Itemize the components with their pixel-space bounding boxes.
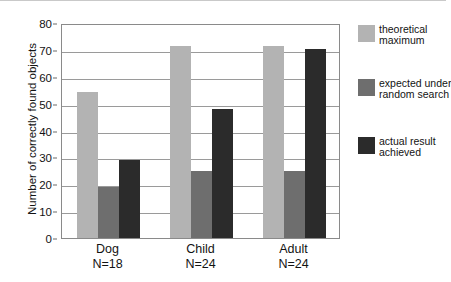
y-tick-mark: [53, 239, 57, 240]
bar-dog-actual-result-achieved: [119, 160, 140, 238]
bars-layer: [62, 25, 339, 238]
y-axis-tick-labels: 01020304050607080: [0, 24, 57, 239]
y-tick-mark: [53, 212, 57, 213]
y-tick-label: 0: [46, 233, 52, 245]
x-group-name: Dog: [61, 242, 154, 257]
y-tick-mark: [53, 50, 57, 51]
x-group-label-dog: DogN=18: [61, 242, 154, 272]
y-tick-mark: [53, 77, 57, 78]
y-tick-label: 60: [39, 72, 52, 84]
bar-child-actual-result-achieved: [212, 109, 233, 238]
x-group-sample-size: N=24: [247, 257, 340, 272]
legend-swatch: [358, 25, 375, 42]
y-tick-mark: [53, 131, 57, 132]
bar-dog-expected-under-random-search: [98, 187, 119, 238]
legend-swatch: [358, 137, 375, 154]
legend-label: expected underrandom search: [379, 78, 449, 100]
y-tick-label: 10: [39, 206, 52, 218]
y-tick-mark: [53, 24, 57, 25]
legend-swatch: [358, 79, 375, 96]
x-axis-group-labels: DogN=18ChildN=24AdultN=24: [61, 242, 340, 282]
y-tick-label: 50: [39, 99, 52, 111]
x-group-name: Adult: [247, 242, 340, 257]
x-group-label-child: ChildN=24: [154, 242, 247, 272]
bar-adult-actual-result-achieved: [305, 49, 326, 238]
y-tick-mark: [53, 104, 57, 105]
x-group-name: Child: [154, 242, 247, 257]
bar-child-expected-under-random-search: [191, 171, 212, 238]
y-tick-mark: [53, 185, 57, 186]
y-tick-label: 70: [39, 45, 52, 57]
legend-label: theoreticalmaximum: [379, 24, 449, 46]
x-group-sample-size: N=18: [61, 257, 154, 272]
plot-area: [61, 24, 340, 239]
bar-adult-expected-under-random-search: [284, 171, 305, 238]
legend-label: actual resultachieved: [379, 136, 449, 158]
y-tick-label: 80: [39, 18, 52, 30]
x-group-label-adult: AdultN=24: [247, 242, 340, 272]
legend-label-line2: random search: [379, 89, 449, 100]
y-tick-label: 20: [39, 179, 52, 191]
y-tick-mark: [53, 158, 57, 159]
y-tick-label: 40: [39, 126, 52, 138]
bar-adult-theoretical-maximum: [263, 46, 284, 238]
x-group-sample-size: N=24: [154, 257, 247, 272]
legend-label-line2: maximum: [379, 35, 449, 46]
y-tick-label: 30: [39, 152, 52, 164]
bar-dog-theoretical-maximum: [77, 92, 98, 238]
legend-label-line2: achieved: [379, 147, 449, 158]
bar-child-theoretical-maximum: [170, 46, 191, 238]
